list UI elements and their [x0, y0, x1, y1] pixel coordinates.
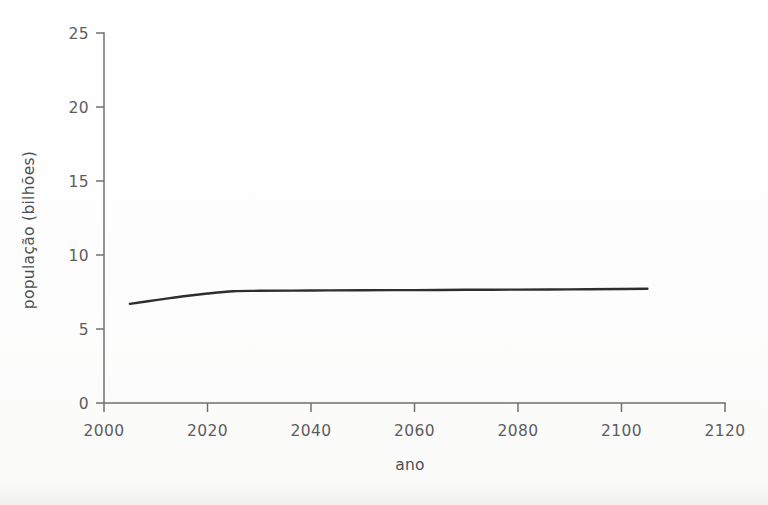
x-tick-label: 2080	[497, 422, 538, 440]
x-axis-ticks	[104, 403, 725, 412]
y-axis-ticks	[96, 33, 104, 403]
population-series-line	[130, 289, 648, 304]
y-axis-tick-labels: 0510152025	[68, 25, 89, 413]
x-axis-title: ano	[395, 456, 425, 474]
x-tick-label: 2100	[601, 422, 642, 440]
y-axis-title: população (bilhões)	[20, 151, 38, 309]
x-axis-tick-labels: 2000202020402060208021002120	[83, 422, 745, 440]
x-tick-label: 2040	[290, 422, 331, 440]
x-tick-label: 2060	[394, 422, 435, 440]
x-tick-label: 2120	[704, 422, 745, 440]
y-tick-label: 25	[68, 25, 89, 43]
y-tick-label: 0	[79, 395, 89, 413]
x-tick-label: 2000	[83, 422, 124, 440]
axis-lines	[104, 33, 725, 403]
figure-canvas: 0510152025 2000202020402060208021002120 …	[0, 0, 768, 505]
y-tick-label: 20	[68, 99, 89, 117]
y-tick-label: 15	[68, 173, 89, 191]
x-tick-label: 2020	[187, 422, 228, 440]
line-chart: 0510152025 2000202020402060208021002120 …	[0, 0, 768, 505]
y-tick-label: 5	[79, 321, 89, 339]
y-tick-label: 10	[68, 247, 89, 265]
